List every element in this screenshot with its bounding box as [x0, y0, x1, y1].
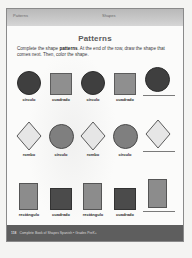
shape-label: cuadrado [46, 97, 76, 102]
answer-rectangle-shape [148, 179, 167, 208]
pattern-row-3: rectángulo cuadrado rectángulo cuadrado [7, 181, 183, 231]
header-band: Patterns Shapes [7, 9, 183, 26]
worksheet-page: Patterns Shapes Patterns Complete the sh… [6, 8, 184, 242]
pattern-row-2: rombo círculo rombo círculo [7, 119, 183, 169]
rectangle-shape [19, 183, 38, 210]
instructions-bold: patterns [59, 46, 77, 51]
page-footer: 118Complete Book of Shapes Spanish • Gra… [7, 225, 183, 241]
answer-line [143, 95, 175, 96]
circle-shape [17, 71, 41, 95]
shape-label: cuadrado [46, 212, 76, 217]
pattern-row-1: círculo cuadrado círculo cuadrado [7, 61, 183, 111]
page-number: 118 [11, 231, 16, 235]
diamond-shape [16, 121, 42, 151]
footer-text: 118Complete Book of Shapes Spanish • Gra… [11, 231, 97, 235]
shape-label: rombo [14, 152, 44, 157]
answer-circle-shape [145, 67, 170, 92]
answer-line [143, 151, 175, 152]
header-right-label: Shapes [102, 13, 116, 18]
rectangle-shape [83, 183, 102, 210]
shape-label: cuadrado [110, 212, 140, 217]
shape-label: círculo [110, 152, 140, 157]
shape-label: rectángulo [78, 212, 108, 217]
circle-shape [81, 71, 105, 95]
shape-label: cuadrado [110, 97, 140, 102]
shape-label: círculo [78, 97, 108, 102]
shape-label: rombo [78, 152, 108, 157]
circle-shape [49, 124, 74, 149]
shape-label: rectángulo [14, 212, 44, 217]
header-left-label: Patterns [13, 13, 28, 18]
instructions: Complete the shape patterns. At the end … [17, 46, 175, 58]
answer-line [143, 211, 175, 212]
square-shape [114, 188, 136, 210]
page-title: Patterns [7, 34, 183, 43]
square-shape [50, 73, 72, 95]
diamond-shape [80, 121, 106, 151]
shape-label: círculo [46, 152, 76, 157]
square-shape [114, 73, 136, 95]
square-shape [50, 188, 72, 210]
answer-diamond-shape [145, 119, 171, 149]
shape-label: círculo [14, 97, 44, 102]
circle-shape [113, 124, 138, 149]
